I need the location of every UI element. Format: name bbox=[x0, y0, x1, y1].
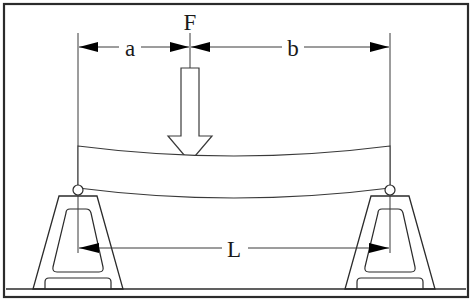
dim-a-right-arrowhead bbox=[170, 42, 189, 52]
left-roller-icon bbox=[73, 185, 83, 195]
right-roller-icon bbox=[385, 185, 395, 195]
force-arrow-icon bbox=[168, 68, 212, 162]
dimension-a-label: a bbox=[125, 36, 135, 61]
dim-b-right-arrowhead bbox=[370, 42, 389, 52]
dim-a-left-arrowhead bbox=[79, 42, 98, 52]
beam-body bbox=[78, 146, 390, 198]
beam bbox=[78, 146, 390, 198]
dimension-b-label: b bbox=[287, 36, 299, 61]
force-label: F bbox=[184, 10, 197, 35]
span-L-label: L bbox=[227, 237, 241, 262]
figure-canvas: F a b L bbox=[0, 0, 472, 301]
right-support bbox=[345, 185, 435, 289]
left-support-base-slot bbox=[45, 278, 111, 289]
left-support bbox=[33, 185, 123, 289]
bending-beam-diagram: F a b L bbox=[0, 0, 472, 301]
right-support-base-slot bbox=[357, 278, 423, 289]
dim-b-left-arrowhead bbox=[191, 42, 210, 52]
